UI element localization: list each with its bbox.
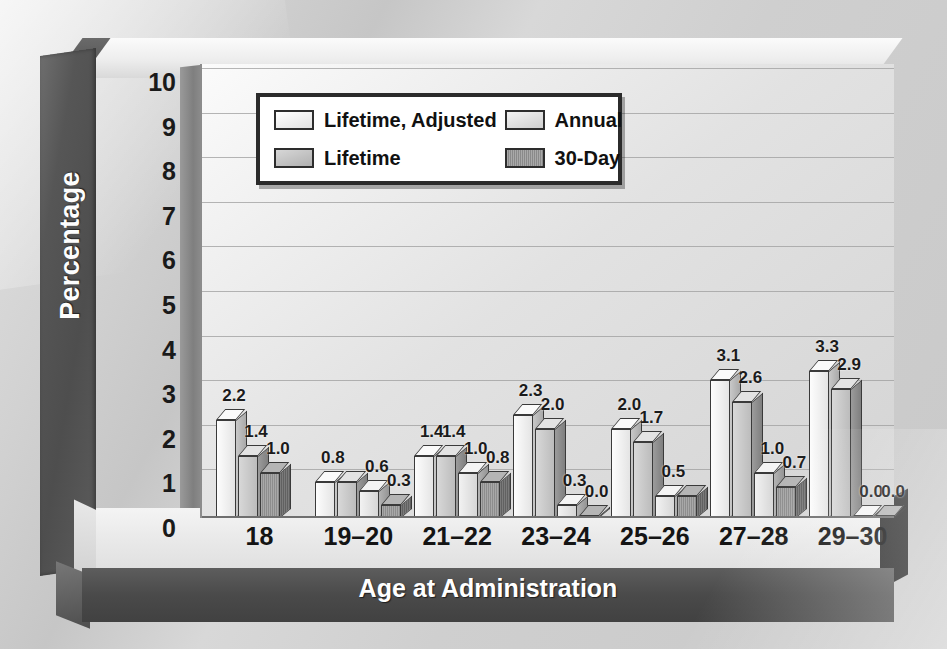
bar-side-face	[653, 433, 664, 518]
bar-value-label: 0.3	[563, 471, 587, 491]
bar-27-28-annual[interactable]: 1.0	[754, 462, 774, 518]
bar-front-face	[216, 420, 236, 518]
bar-21-22-lifetime-adjusted[interactable]: 1.4	[414, 445, 434, 518]
bar-group-25-26: 2.01.70.5	[611, 418, 699, 518]
swatch-annual	[505, 110, 545, 130]
y-axis-tick-8: 8	[116, 157, 176, 186]
bar-25-26-30-day[interactable]	[677, 485, 697, 518]
swatch-lifetime-adjusted	[274, 110, 314, 130]
bar-top-face	[853, 505, 882, 516]
bar-front-face	[633, 442, 653, 518]
x-axis-tick-29-30: 29–30	[818, 522, 888, 551]
bar-27-28-lifetime-adjusted[interactable]: 3.1	[710, 369, 730, 518]
legend-item-label: 30-Day	[555, 147, 621, 170]
bar-value-label: 0.8	[486, 448, 510, 468]
bar-23-24-annual[interactable]: 0.3	[557, 494, 577, 518]
bar-side-face	[774, 464, 785, 518]
bar-side-face	[873, 507, 884, 518]
legend-item-label: Lifetime, Adjusted	[324, 109, 497, 132]
chart-right-shadow-face	[880, 489, 908, 590]
bar-29-30-annual[interactable]: 0.0	[853, 505, 873, 518]
bar-value-label: 3.1	[716, 346, 740, 366]
bar-23-24-lifetime-adjusted[interactable]: 2.3	[513, 404, 533, 518]
y-axis-tick-7: 7	[116, 201, 176, 230]
bar-27-28-30-day[interactable]: 0.7	[776, 476, 796, 518]
y-axis-tick-10: 10	[116, 68, 176, 97]
bar-side-face	[796, 478, 807, 518]
bar-front-face	[480, 482, 500, 518]
legend-item-lifetime[interactable]: Lifetime	[266, 147, 497, 170]
bar-19-20-lifetime-adjusted[interactable]: 0.8	[315, 471, 335, 518]
bar-front-face	[611, 429, 631, 518]
bar-value-label: 1.0	[266, 439, 290, 459]
bar-front-face	[535, 429, 555, 518]
bar-group-27-28: 3.12.61.00.7	[710, 369, 798, 518]
bar-value-label: 1.0	[760, 439, 784, 459]
bar-25-26-lifetime-adjusted[interactable]: 2.0	[611, 418, 631, 518]
bar-value-label: 0.7	[782, 453, 806, 473]
x-axis-tick-21-22: 21–22	[422, 522, 492, 551]
y-axis-tick-2: 2	[116, 424, 176, 453]
bar-25-26-lifetime[interactable]: 1.7	[633, 431, 653, 518]
bar-group-21-22: 1.41.41.00.8	[414, 445, 502, 518]
bar-value-label: 3.3	[815, 337, 839, 357]
bar-front-face	[754, 473, 774, 518]
bar-front-face	[809, 371, 829, 518]
bar-19-20-30-day[interactable]: 0.3	[381, 494, 401, 518]
x-axis-line	[202, 516, 894, 518]
bar-29-30-lifetime-adjusted[interactable]: 3.3	[809, 360, 829, 518]
x-axis-tick-18: 18	[246, 522, 274, 551]
bar-29-30-lifetime[interactable]: 2.9	[831, 378, 851, 518]
bar-18-lifetime-adjusted[interactable]: 2.2	[216, 409, 236, 518]
bar-29-30-30-day[interactable]: 0.0	[875, 505, 895, 518]
legend-item-label: Lifetime	[324, 147, 401, 170]
legend-item-30-day[interactable]: 30-Day	[497, 147, 623, 170]
bar-27-28-lifetime[interactable]: 2.6	[732, 391, 752, 518]
legend-item-label: Annual	[555, 109, 623, 132]
bar-side-face	[280, 464, 291, 518]
y-axis-tick-5: 5	[116, 291, 176, 320]
figure-background: Percentage 109876543210 2.21.41.00.80.60…	[0, 0, 947, 649]
bar-front-face	[414, 456, 434, 518]
bar-front-face	[732, 402, 752, 518]
swatch-lifetime	[274, 148, 314, 168]
bar-21-22-annual[interactable]: 1.0	[458, 462, 478, 518]
bar-group-23-24: 2.32.00.30.0	[513, 404, 601, 518]
bar-chart-3d: Percentage 109876543210 2.21.41.00.80.60…	[34, 20, 910, 628]
bar-top-face	[677, 485, 706, 496]
bar-top-face	[776, 476, 805, 487]
bar-19-20-annual[interactable]: 0.6	[359, 480, 379, 518]
bar-value-label: 0.5	[662, 462, 686, 482]
bar-value-label: 1.4	[442, 422, 466, 442]
bar-value-label: 0.6	[365, 457, 389, 477]
x-axis-tick-23-24: 23–24	[521, 522, 591, 551]
bar-21-22-30-day[interactable]: 0.8	[480, 471, 500, 518]
bar-side-face	[895, 507, 906, 518]
bar-side-face	[851, 379, 862, 518]
y-axis-title: Percentage	[55, 106, 86, 386]
bar-top-face	[633, 431, 662, 442]
bar-23-24-lifetime[interactable]: 2.0	[535, 418, 555, 518]
bar-18-lifetime[interactable]: 1.4	[238, 445, 258, 518]
bar-25-26-annual[interactable]: 0.5	[655, 485, 675, 518]
bar-18-30-day[interactable]: 1.0	[260, 462, 280, 518]
bar-value-label: 2.2	[222, 386, 246, 406]
bar-value-label: 2.0	[541, 395, 565, 415]
bar-group-29-30: 3.32.90.00.0	[809, 360, 897, 518]
bar-value-label: 0.3	[387, 471, 411, 491]
chart-legend: Lifetime, AdjustedAnnualLifetime30-Day	[256, 93, 622, 185]
bar-value-label: 1.4	[420, 422, 444, 442]
bar-19-20-lifetime[interactable]	[337, 471, 357, 518]
bar-top-face	[579, 505, 608, 516]
bar-front-face	[238, 456, 258, 518]
legend-item-lifetime-adjusted[interactable]: Lifetime, Adjusted	[266, 109, 497, 132]
y-axis-tick-4: 4	[116, 335, 176, 364]
bar-front-face	[458, 473, 478, 518]
bar-value-label: 2.3	[519, 381, 543, 401]
y-axis-tick-0: 0	[116, 514, 176, 543]
bar-group-18: 2.21.41.0	[216, 409, 282, 518]
bar-21-22-lifetime[interactable]: 1.4	[436, 445, 456, 518]
legend-item-annual[interactable]: Annual	[497, 109, 623, 132]
x-axis-title: Age at Administration	[82, 574, 894, 603]
bar-front-face	[436, 456, 456, 518]
